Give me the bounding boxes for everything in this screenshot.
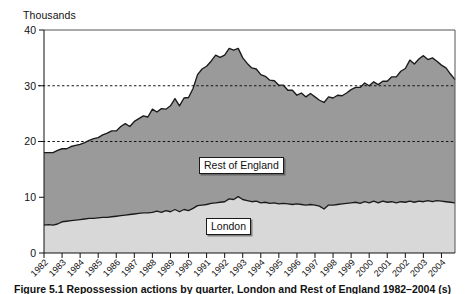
- x-tick-label: 2003: [408, 257, 429, 278]
- x-tick-label: 1983: [47, 257, 68, 278]
- x-tick-label: 2004: [426, 257, 447, 278]
- x-tick-label: 1996: [282, 257, 303, 278]
- area-rest-of-england: [44, 48, 455, 225]
- legend-label-london: London: [206, 218, 251, 235]
- y-tick-label: 30: [24, 80, 36, 92]
- y-tick-label: 40: [24, 24, 36, 36]
- x-tick-label: 1992: [209, 257, 230, 278]
- x-tick-label: 1995: [264, 257, 285, 278]
- legend-label-rest-of-england: Rest of England: [199, 157, 284, 174]
- x-tick-label: 1986: [101, 257, 122, 278]
- x-tick-label: 1998: [318, 257, 339, 278]
- x-tick-label: 1997: [300, 257, 321, 278]
- chart-plot-area: 0102030401982198319841985198619871988198…: [0, 0, 472, 294]
- x-tick-label: 1990: [173, 257, 194, 278]
- x-tick-label: 2001: [372, 257, 393, 278]
- x-tick-label: 1985: [83, 257, 104, 278]
- stacked-area-chart: 0102030401982198319841985198619871988198…: [0, 0, 472, 294]
- x-tick-label: 1993: [227, 257, 248, 278]
- y-tick-label: 20: [24, 135, 36, 147]
- x-tick-label: 2000: [354, 257, 375, 278]
- x-tick-label: 1982: [29, 257, 50, 278]
- x-tick-label: 1999: [336, 257, 357, 278]
- x-tick-label: 1994: [245, 257, 266, 278]
- y-tick-label: 0: [30, 247, 36, 259]
- x-tick-label: 1988: [137, 257, 158, 278]
- x-tick-label: 1989: [155, 257, 176, 278]
- figure-container: Thousands 010203040198219831984198519861…: [0, 0, 472, 294]
- x-tick-label: 1991: [191, 257, 212, 278]
- x-tick-label: 2002: [390, 257, 411, 278]
- x-tick-label: 1984: [65, 257, 86, 278]
- x-tick-label: 1987: [119, 257, 140, 278]
- figure-caption: Figure 5.1 Repossession actions by quart…: [14, 283, 472, 294]
- y-tick-label: 10: [24, 191, 36, 203]
